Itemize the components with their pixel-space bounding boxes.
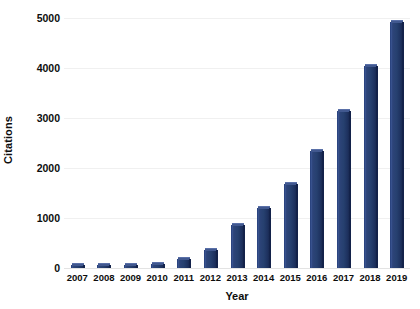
bar[interactable] bbox=[257, 208, 270, 269]
bar-slot bbox=[231, 18, 244, 268]
y-tick-label: 3000 bbox=[18, 112, 60, 124]
bar-side-face bbox=[83, 265, 85, 268]
bar[interactable] bbox=[97, 265, 110, 268]
bar-side-face bbox=[136, 265, 138, 268]
bar-slot bbox=[151, 18, 164, 268]
bar[interactable] bbox=[204, 250, 217, 269]
bar[interactable] bbox=[124, 265, 137, 268]
bar-side-face bbox=[216, 250, 218, 269]
x-tick-label: 2015 bbox=[277, 272, 304, 283]
bar-slot bbox=[97, 18, 110, 268]
bar-side-face bbox=[349, 111, 351, 269]
bar-side-face bbox=[322, 151, 324, 269]
bar[interactable] bbox=[71, 265, 84, 268]
bar[interactable] bbox=[364, 66, 377, 269]
y-tick-label: 4000 bbox=[18, 62, 60, 74]
y-axis-title-label: Citations bbox=[2, 116, 14, 164]
bar-side-face bbox=[189, 259, 191, 268]
x-tick-label: 2016 bbox=[304, 272, 331, 283]
bar-slot bbox=[284, 18, 297, 268]
bar[interactable] bbox=[177, 259, 190, 268]
x-tick-label: 2008 bbox=[91, 272, 118, 283]
bar-side-face bbox=[269, 208, 271, 269]
x-tick-label: 2009 bbox=[117, 272, 144, 283]
bar-side-face bbox=[163, 264, 165, 269]
x-tick-label: 2013 bbox=[224, 272, 251, 283]
bar-slot bbox=[177, 18, 190, 268]
x-tick-label: 2012 bbox=[197, 272, 224, 283]
bar[interactable] bbox=[231, 225, 244, 269]
y-tick-label: 2000 bbox=[18, 162, 60, 174]
bar-slot bbox=[337, 18, 350, 268]
x-tick-label: 2017 bbox=[330, 272, 357, 283]
axis-baseline bbox=[64, 268, 410, 269]
x-tick-label: 2019 bbox=[383, 272, 410, 283]
bar-slot bbox=[257, 18, 270, 268]
bar[interactable] bbox=[284, 184, 297, 268]
x-tick-label: 2014 bbox=[250, 272, 277, 283]
x-tick-label: 2018 bbox=[357, 272, 384, 283]
bar[interactable] bbox=[337, 111, 350, 269]
bar[interactable] bbox=[310, 151, 323, 269]
bar-side-face bbox=[402, 22, 404, 269]
bar-slot bbox=[71, 18, 84, 268]
bar-side-face bbox=[243, 225, 245, 269]
bar-slot bbox=[310, 18, 323, 268]
bar-slot bbox=[390, 18, 403, 268]
bar[interactable] bbox=[151, 264, 164, 269]
bar-slot bbox=[204, 18, 217, 268]
bar-chart: Citations 010002000300040005000 20072008… bbox=[0, 0, 420, 309]
bar-slot bbox=[364, 18, 377, 268]
x-axis-tick-labels: 2007200820092010201120122013201420152016… bbox=[64, 272, 410, 288]
bar-side-face bbox=[376, 66, 378, 269]
bar-slot bbox=[124, 18, 137, 268]
bar-side-face bbox=[296, 184, 298, 268]
x-tick-label: 2007 bbox=[64, 272, 91, 283]
y-tick-label: 0 bbox=[18, 262, 60, 274]
plot-area bbox=[64, 18, 410, 268]
bars-layer bbox=[64, 18, 410, 268]
bar-side-face bbox=[109, 265, 111, 268]
y-axis-title: Citations bbox=[0, 0, 16, 280]
y-tick-label: 1000 bbox=[18, 212, 60, 224]
x-tick-label: 2010 bbox=[144, 272, 171, 283]
x-tick-label: 2011 bbox=[170, 272, 197, 283]
y-tick-label: 5000 bbox=[18, 12, 60, 24]
x-axis-title: Year bbox=[64, 290, 410, 302]
y-axis-tick-labels: 010002000300040005000 bbox=[18, 0, 60, 309]
bar[interactable] bbox=[390, 22, 403, 269]
